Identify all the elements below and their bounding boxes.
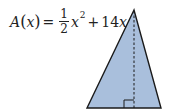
diagram-canvas: A ( x ) = 1 2 x 2 + 14 x	[0, 0, 171, 112]
triangle-shape	[87, 10, 161, 108]
triangle-diagram	[0, 0, 171, 112]
